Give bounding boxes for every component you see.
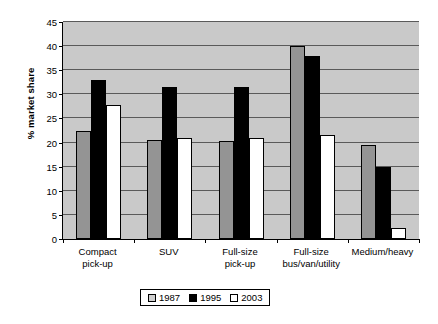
bar-2003-4 [320,135,335,239]
x-axis-label-line: Full-size [276,246,347,258]
x-axis-label: Full-sizebus/van/utility [276,246,347,269]
legend-swatch-1987 [148,294,156,302]
y-axis-tick-label: 40 [29,41,63,52]
bar-groups [63,22,419,239]
bar-1987-1 [76,131,91,240]
legend-item-1995: 1995 [189,292,221,303]
bar-chart-figure: % market share 051015202530354045 Compac… [0,0,438,324]
x-axis-tick-mark [348,239,349,243]
bar-group [277,22,348,239]
bar-1995-1 [91,80,106,239]
bar-1987-3 [219,141,234,239]
x-axis-label: Full-sizepick-up [204,246,275,269]
bar-group [63,22,134,239]
bar-1995-3 [234,87,249,239]
x-axis-tick-mark [63,239,64,243]
x-axis-label-line: Full-size [204,246,275,258]
x-axis-label-line: pick-up [62,258,133,270]
legend-swatch-2003 [230,294,238,302]
legend-item-2003: 2003 [230,292,262,303]
y-axis-tick-label: 10 [29,185,63,196]
x-axis-label-line: pick-up [204,258,275,270]
bar-2003-2 [177,138,192,239]
y-axis-tick-label: 45 [29,17,63,28]
legend-label: 1995 [200,292,221,303]
legend-item-1987: 1987 [148,292,180,303]
y-axis-tick-label: 30 [29,89,63,100]
bar-2003-3 [249,138,264,239]
bar-group [348,22,419,239]
x-axis-tick-mark [205,239,206,243]
plot-area: 051015202530354045 [62,22,419,240]
x-axis-labels: Compactpick-upSUVFull-sizepick-upFull-si… [62,246,418,269]
x-axis-label-line: SUV [133,246,204,258]
y-axis-tick-label: 25 [29,113,63,124]
bar-2003-5 [391,228,406,239]
y-axis-tick-label: 20 [29,137,63,148]
legend-swatch-1995 [189,294,197,302]
y-axis-tick-label: 15 [29,161,63,172]
y-axis-tick-label: 5 [29,209,63,220]
x-axis-label: Medium/heavy [347,246,418,269]
y-axis-tick-label: 35 [29,65,63,76]
x-axis-label: SUV [133,246,204,269]
bar-group [134,22,205,239]
bar-1987-2 [147,140,162,239]
bar-1987-5 [361,145,376,239]
bar-1995-2 [162,87,177,239]
x-axis-label-line: Compact [62,246,133,258]
y-axis-title: % market share [25,34,36,174]
bar-2003-1 [106,105,121,239]
x-axis-tick-mark [419,239,420,243]
bar-1987-4 [290,46,305,239]
bar-1995-4 [305,56,320,239]
legend-label: 2003 [241,292,262,303]
chart-legend: 198719952003 [140,289,270,306]
legend-label: 1987 [159,292,180,303]
bar-group [205,22,276,239]
x-axis-label-line: Medium/heavy [347,246,418,258]
x-axis-tick-mark [277,239,278,243]
x-axis-label-line: bus/van/utility [276,258,347,270]
bar-1995-5 [376,167,391,239]
y-axis-tick-label: 0 [29,234,63,245]
x-axis-tick-mark [134,239,135,243]
x-axis-label: Compactpick-up [62,246,133,269]
